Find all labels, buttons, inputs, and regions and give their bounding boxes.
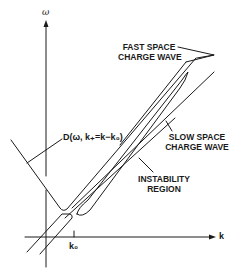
- dispersion-relation-label: D(ω, k₊=k−k₀): [63, 132, 123, 142]
- instability-leader: [139, 158, 153, 172]
- dispersion-curve-lower: [27, 214, 72, 254]
- k-axis-label: k: [219, 231, 224, 241]
- instability-label: INSTABILITY REGION: [137, 174, 191, 194]
- slow-wave-label-line1: SLOW SPACE: [165, 132, 229, 142]
- fast-wave-label-line2: CHARGE WAVE: [118, 52, 180, 62]
- instability-label-line1: INSTABILITY: [137, 174, 191, 184]
- fast-wave-leader-2: [186, 55, 214, 62]
- instability-label-line2: REGION: [137, 184, 191, 194]
- slow-wave-label: SLOW SPACE CHARGE WAVE: [165, 132, 229, 152]
- fast-wave-label-line1: FAST SPACE: [118, 42, 180, 52]
- k0-tick-label: k₀: [69, 241, 78, 251]
- dispersion-leader: [27, 139, 62, 163]
- slow-wave-label-line2: CHARGE WAVE: [165, 142, 229, 152]
- omega-axis-label: ω: [42, 7, 49, 17]
- dispersion-diagram: ω k k₀ FAST SPACE CHARGE WAVE SLOW SPACE…: [0, 0, 240, 278]
- fast-wave-label: FAST SPACE CHARGE WAVE: [118, 42, 180, 62]
- omega-axis-arrow-icon: [44, 20, 49, 27]
- k-axis-arrow-icon: [209, 235, 216, 240]
